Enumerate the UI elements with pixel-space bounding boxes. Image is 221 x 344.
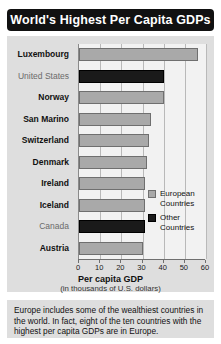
bar	[79, 134, 149, 147]
chart-legend: European CountriesOther Countries	[148, 189, 210, 237]
category-labels: LuxembourgUnited StatesNorwaySan MarinoS…	[7, 44, 73, 259]
bar-fill	[79, 199, 145, 212]
chart-panel: LuxembourgUnited StatesNorwaySan MarinoS…	[7, 36, 214, 292]
category-label: Ireland	[41, 177, 69, 190]
category-label: Denmark	[33, 156, 69, 169]
x-axis-subtitle: (in thousands of U.S. dollars)	[7, 284, 214, 293]
bar	[79, 113, 151, 126]
legend-label: European Countries	[160, 189, 210, 208]
category-label: Austria	[40, 242, 69, 255]
bar-fill	[79, 48, 198, 61]
tick-label: 20	[116, 263, 124, 272]
tick-label: 60	[201, 263, 209, 272]
bar-fill	[79, 156, 147, 169]
category-label: Canada	[39, 220, 69, 233]
legend-item: Other Countries	[148, 213, 210, 232]
bar-fill	[79, 113, 151, 126]
x-axis-ticks: 0102030405060	[78, 260, 205, 270]
tick-label: 0	[76, 263, 80, 272]
tick-label: 40	[158, 263, 166, 272]
legend-swatch-icon	[148, 214, 156, 222]
page-title: World's Highest Per Capita GDPs	[10, 13, 210, 27]
bar-fill	[79, 220, 145, 233]
bar-fill	[79, 91, 164, 104]
bar	[79, 199, 145, 212]
legend-label: Other Countries	[160, 213, 210, 232]
category-label: Iceland	[40, 199, 69, 212]
legend-swatch-icon	[148, 190, 156, 198]
chart-title-bar: World's Highest Per Capita GDPs	[7, 9, 214, 31]
bar	[79, 70, 164, 83]
bar-fill	[79, 242, 143, 255]
bar	[79, 242, 143, 255]
x-axis-title: Per capita GDP	[7, 274, 214, 284]
chart-figure: World's Highest Per Capita GDPs Luxembou…	[0, 0, 221, 344]
tick-label: 50	[180, 263, 188, 272]
bar	[79, 177, 145, 190]
footer-caption: Europe includes some of the wealthiest c…	[7, 300, 214, 338]
bar	[79, 91, 164, 104]
tick-label: 30	[137, 263, 145, 272]
category-label: Luxembourg	[18, 48, 69, 61]
bar-fill	[79, 134, 149, 147]
bar-fill	[79, 70, 164, 83]
bar	[79, 48, 198, 61]
bar	[79, 156, 147, 169]
footer-text: Europe includes some of the wealthiest c…	[14, 305, 207, 337]
tick-label: 10	[95, 263, 103, 272]
legend-item: European Countries	[148, 189, 210, 208]
category-label: Switzerland	[22, 134, 69, 147]
category-label: San Marino	[23, 113, 69, 126]
bar-fill	[79, 177, 145, 190]
category-label: United States	[18, 70, 69, 83]
category-label: Norway	[38, 91, 69, 104]
bar	[79, 220, 145, 233]
